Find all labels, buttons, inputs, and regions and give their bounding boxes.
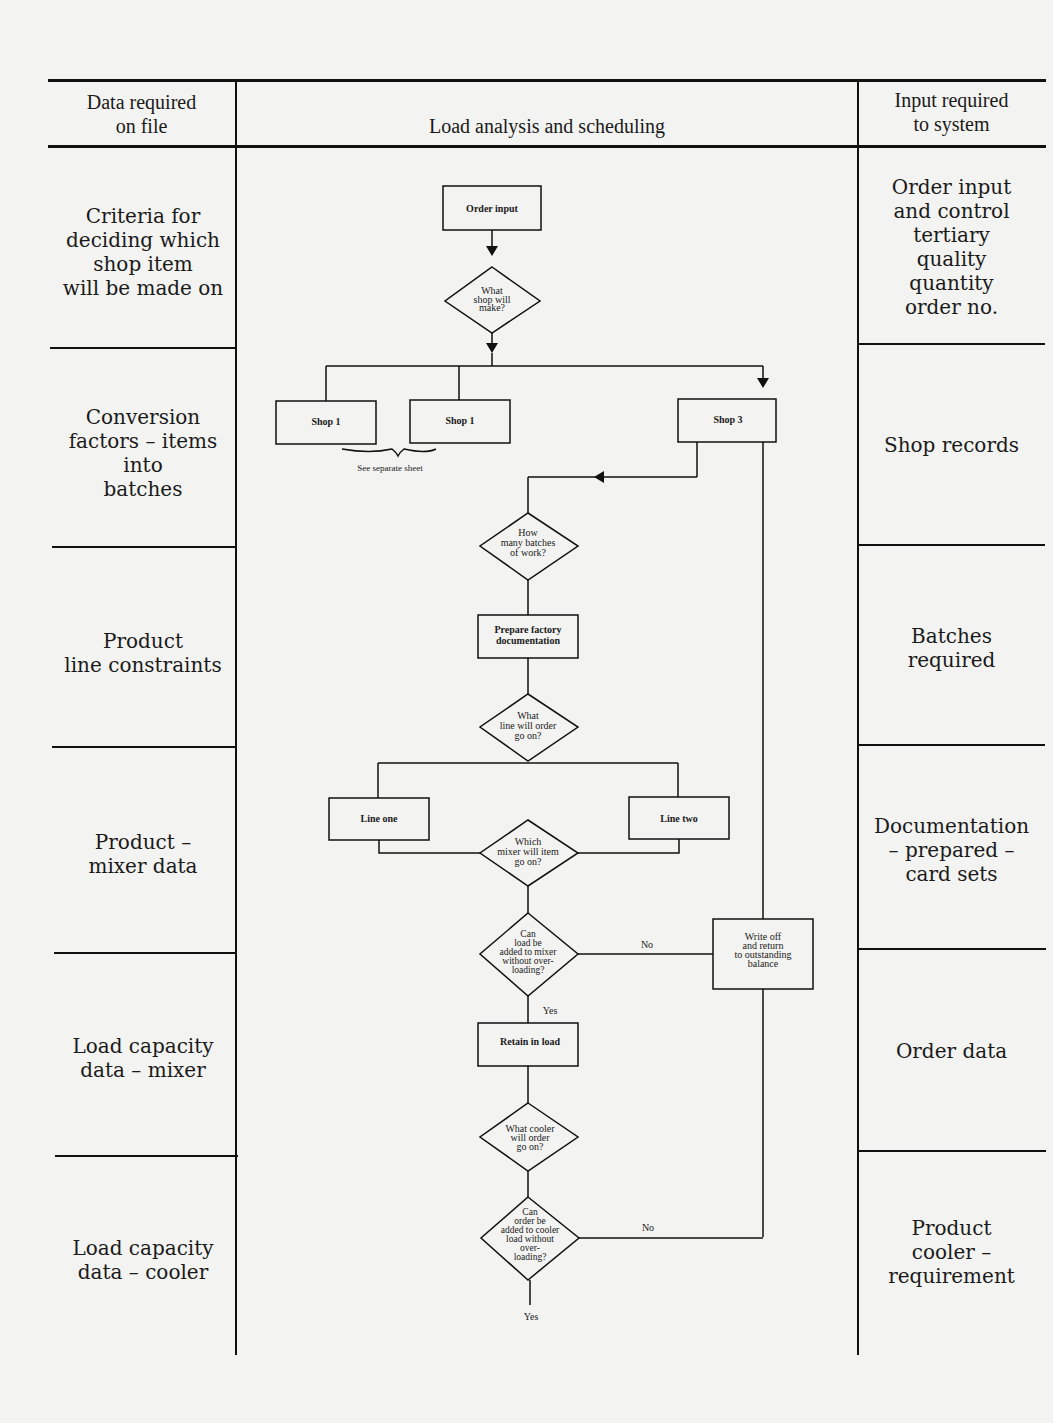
shop-1a-label: Shop 1 [311, 416, 340, 427]
order-input-label: Order input [466, 203, 518, 214]
no-label-mixer: No [641, 939, 653, 950]
no-label-cooler: No [642, 1222, 654, 1233]
yes-label-mixer: Yes [543, 1005, 558, 1016]
shop-3-label: Shop 3 [713, 414, 742, 425]
prepare-docs-label: Prepare factorydocumentation [494, 624, 561, 646]
shop-1b-label: Shop 1 [445, 415, 474, 426]
see-separate-label: See separate sheet [357, 463, 423, 473]
line-two-label: Line two [660, 813, 698, 824]
flowchart: Order input Whatshop willmake? Shop 1 Sh… [0, 0, 1053, 1423]
retain-load-label: Retain in load [500, 1036, 560, 1047]
line-one-label: Line one [361, 813, 399, 824]
yes-label-cooler: Yes [524, 1311, 539, 1322]
